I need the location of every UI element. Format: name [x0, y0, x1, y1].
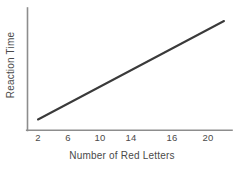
data-series-line	[38, 21, 224, 120]
x-tick-label-20: 20	[203, 133, 214, 143]
x-tick-label-2: 2	[35, 133, 40, 143]
x-tick-label-14: 14	[126, 133, 137, 143]
x-axis-title: Number of Red Letters	[0, 151, 244, 161]
x-tick-label-16: 16	[167, 133, 178, 143]
y-axis-title: Reaction Time	[6, 17, 16, 113]
x-tick-label-6: 6	[65, 133, 70, 143]
chart-plot-area	[0, 0, 244, 171]
chart-container: 2 6 10 14 16 20 Number of Red Letters Re…	[0, 0, 244, 171]
x-tick-label-10: 10	[95, 133, 106, 143]
